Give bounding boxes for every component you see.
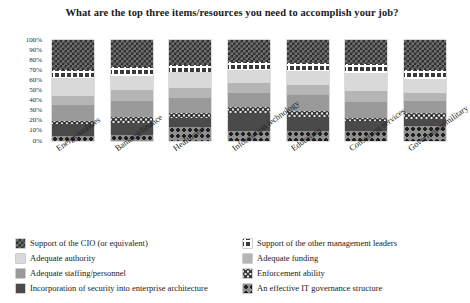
bar-segment[interactable] — [52, 105, 94, 121]
legend-label: Adequate authority — [30, 254, 95, 263]
legend-item[interactable]: Adequate authority — [16, 251, 208, 266]
bar-segment[interactable] — [169, 118, 211, 127]
bar-segment[interactable] — [52, 96, 94, 105]
legend-swatch-icon — [16, 254, 25, 263]
legend-item[interactable]: Incorporation of security into enterpris… — [16, 281, 208, 296]
bar-segment[interactable] — [52, 40, 94, 70]
bar-segment[interactable] — [111, 90, 153, 100]
legend-item[interactable]: Adequate staffing/personnel — [16, 266, 208, 281]
bar-segment[interactable] — [169, 72, 211, 88]
bar-segment[interactable] — [111, 101, 153, 117]
legend-item[interactable]: Support of the CIO (or equivalent) — [16, 236, 208, 251]
legend-label: Adequate staffing/personnel — [30, 269, 126, 278]
bar-segment[interactable] — [52, 78, 94, 95]
legend-label: Adequate funding — [257, 254, 318, 263]
bar-segment[interactable] — [404, 93, 446, 101]
bar-segment[interactable] — [169, 40, 211, 65]
legend-swatch-icon — [16, 269, 25, 278]
legend-item[interactable]: Adequate funding — [243, 251, 397, 266]
y-axis-tick: 100% — [6, 37, 42, 44]
chart-legend: Support of the CIO (or equivalent)Adequa… — [0, 236, 464, 298]
bar-segment[interactable] — [404, 79, 446, 92]
legend-label: Support of the CIO (or equivalent) — [30, 239, 148, 248]
bar-segment[interactable] — [287, 40, 329, 63]
bar-segment[interactable] — [228, 62, 270, 70]
bar-segment[interactable] — [228, 83, 270, 92]
y-axis: 100%90%80%70%60%50%40%30%20%10%0% — [6, 34, 42, 147]
bar-segment[interactable] — [287, 71, 329, 85]
bar-segment[interactable] — [111, 40, 153, 67]
bar-3[interactable] — [169, 40, 211, 141]
y-axis-tick: 80% — [6, 57, 42, 64]
bar-segment[interactable] — [345, 73, 387, 91]
chart-title: What are the top three items/resources y… — [0, 6, 464, 19]
bar-segment[interactable] — [345, 91, 387, 101]
legend-swatch-icon — [16, 239, 25, 248]
plot-area — [44, 40, 454, 141]
y-axis-tick: 40% — [6, 97, 42, 104]
legend-swatch-icon — [243, 269, 252, 278]
y-axis-tick: 30% — [6, 107, 42, 114]
bar-segment[interactable] — [287, 63, 329, 71]
bar-segment[interactable] — [287, 85, 329, 94]
legend-item[interactable]: Support of the other management leaders — [243, 236, 397, 251]
bar-segment[interactable] — [287, 117, 329, 131]
legend-label: Incorporation of security into enterpris… — [30, 284, 208, 293]
bar-segment[interactable] — [345, 64, 387, 73]
legend-swatch-icon — [243, 284, 252, 293]
legend-item[interactable]: Enforcement ability — [243, 266, 397, 281]
legend-column-right: Support of the other management leadersA… — [243, 236, 397, 296]
y-axis-tick: 60% — [6, 77, 42, 84]
legend-label: Enforcement ability — [257, 269, 325, 278]
bar-segment[interactable] — [404, 101, 446, 113]
bar-segment[interactable] — [345, 40, 387, 64]
bar-segment[interactable] — [52, 70, 94, 78]
bar-segment[interactable] — [404, 40, 446, 70]
bar-segment[interactable] — [228, 40, 270, 62]
bar-segment[interactable] — [111, 76, 153, 90]
legend-swatch-icon — [243, 239, 252, 248]
legend-label: Support of the other management leaders — [257, 239, 397, 248]
y-axis-tick: 10% — [6, 127, 42, 134]
x-axis-labels: Energy/utilitiesBanking/financeHealthcar… — [0, 141, 464, 233]
bar-segment[interactable] — [169, 98, 211, 113]
bar-segment[interactable] — [345, 102, 387, 118]
y-axis-tick: 90% — [6, 47, 42, 54]
legend-column-left: Support of the CIO (or equivalent)Adequa… — [16, 236, 208, 296]
bar-segment[interactable] — [169, 88, 211, 97]
y-axis-tick: 70% — [6, 67, 42, 74]
bar-segment[interactable] — [228, 93, 270, 107]
legend-label: An effective IT governance structure — [257, 284, 382, 293]
bar-segment[interactable] — [111, 67, 153, 76]
bar-segment[interactable] — [404, 70, 446, 79]
legend-swatch-icon — [243, 254, 252, 263]
y-axis-tick: 20% — [6, 117, 42, 124]
bar-5[interactable] — [287, 40, 329, 141]
legend-item[interactable]: An effective IT governance structure — [243, 281, 397, 296]
bar-segment[interactable] — [169, 65, 211, 72]
y-axis-tick: 50% — [6, 87, 42, 94]
legend-swatch-icon — [16, 284, 25, 293]
bar-segment[interactable] — [228, 70, 270, 83]
